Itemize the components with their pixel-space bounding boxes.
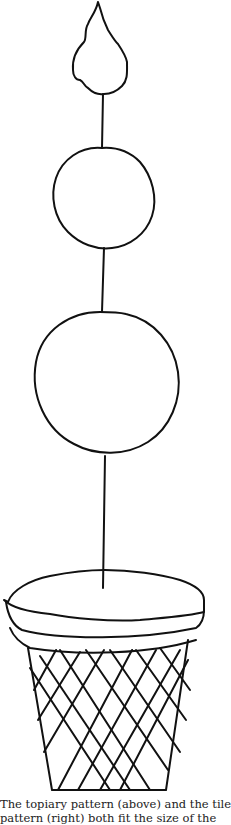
stem-middle [102, 248, 104, 312]
caption-line-2: pattern (right) both fit the size of the [0, 811, 210, 825]
stem-top [102, 94, 103, 148]
pot-rim [10, 628, 196, 653]
caption-line-1: The topiary pattern (above) and the tile [0, 797, 231, 811]
basket-weave [30, 648, 190, 790]
teardrop-shape [73, 2, 127, 94]
lower-sphere [35, 312, 179, 453]
upper-sphere [53, 148, 154, 249]
topiary-illustration [0, 0, 210, 795]
figure-caption: The topiary pattern (above) and the tile… [0, 797, 210, 825]
stem-bottom [103, 456, 105, 588]
pot-body [28, 640, 188, 790]
